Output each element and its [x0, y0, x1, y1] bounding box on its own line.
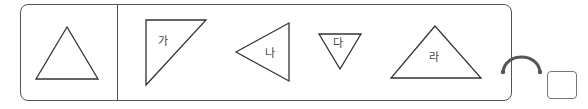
option-na-label: 나: [265, 48, 275, 59]
connector-hook-icon: [503, 57, 540, 72]
option-da-label: 다: [333, 38, 343, 49]
shapes-canvas: [0, 0, 588, 109]
reference-triangle-icon: [36, 27, 98, 79]
option-ra-label: 라: [429, 52, 439, 63]
option-ga-right-triangle-icon: [146, 20, 206, 85]
answer-input-box[interactable]: [547, 71, 577, 99]
option-ga-label: 가: [158, 36, 168, 47]
option-na-left-triangle-icon: [236, 23, 289, 81]
